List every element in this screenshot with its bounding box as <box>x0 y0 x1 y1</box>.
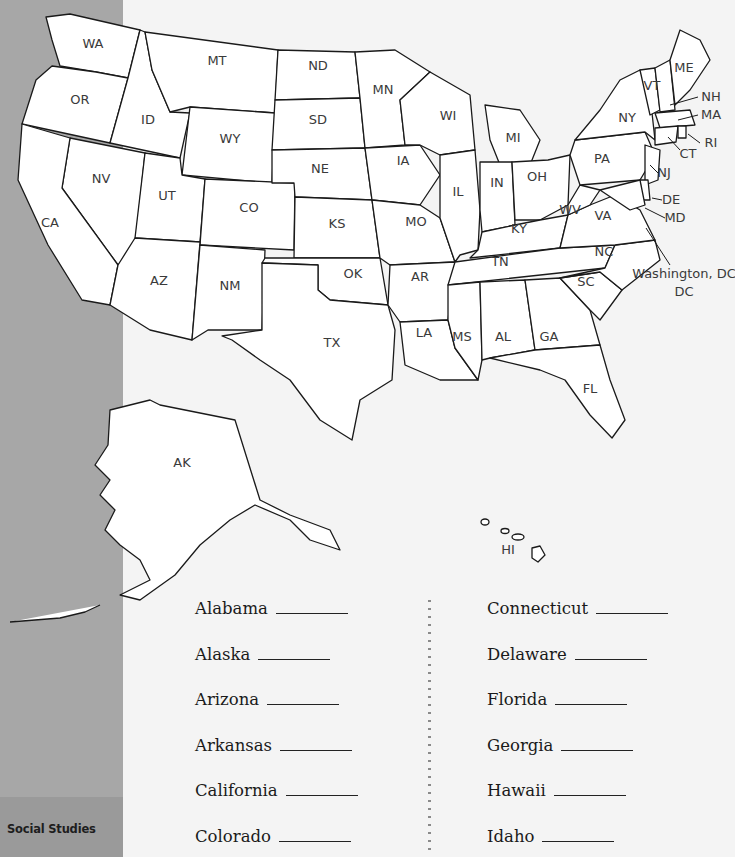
label-ut: UT <box>158 188 176 203</box>
callout-label: NJ <box>657 165 671 180</box>
callout-label-dc: DC <box>674 284 693 299</box>
answer-blank[interactable] <box>276 612 348 614</box>
label-mn: MN <box>373 82 394 97</box>
label-tn: TN <box>490 254 509 269</box>
answer-blank[interactable] <box>561 749 633 751</box>
label-ks: KS <box>329 216 346 231</box>
label-al: AL <box>495 329 512 344</box>
worksheet-row: Arkansas <box>195 736 352 755</box>
label-wa: WA <box>82 36 103 51</box>
state-name: Hawaii <box>487 781 546 800</box>
label-tx: TX <box>323 335 341 350</box>
callout-label: CT <box>679 146 696 161</box>
label-ca: CA <box>41 215 59 230</box>
callout-label: RI <box>705 135 718 150</box>
state-name: Arkansas <box>195 736 272 755</box>
state-mt <box>145 32 278 113</box>
state-name: Idaho <box>487 827 534 846</box>
label-pa: PA <box>594 151 610 166</box>
state-ct <box>655 126 678 145</box>
answer-blank[interactable] <box>542 840 614 842</box>
answer-blank[interactable] <box>286 794 358 796</box>
label-ky: KY <box>511 221 527 236</box>
worksheet-row: Florida <box>487 690 627 709</box>
state-name: Alabama <box>195 599 268 618</box>
callout-line <box>645 208 665 218</box>
state-fl <box>490 345 625 438</box>
callout-label: NH <box>701 89 721 104</box>
state-in <box>480 162 515 232</box>
callout-label: DE <box>662 192 680 207</box>
label-mt: MT <box>207 53 226 68</box>
answer-blank[interactable] <box>267 703 339 705</box>
worksheet-row: Delaware <box>487 645 647 664</box>
label-sc: SC <box>577 274 594 289</box>
label-wy: WY <box>220 131 241 146</box>
label-az: AZ <box>150 273 168 288</box>
state-name: Florida <box>487 690 547 709</box>
state-name: Arizona <box>195 690 259 709</box>
state-name: Alaska <box>195 645 250 664</box>
us-map: WAORIDMTWYNVUTCOCAAZNMNDSDNEKSOKTXMNIAMO… <box>0 0 735 640</box>
answer-blank[interactable] <box>596 612 668 614</box>
label-vt: VT <box>644 78 661 93</box>
label-in: IN <box>490 175 504 190</box>
callout-label: Washington, DC <box>632 266 735 281</box>
label-mi: MI <box>505 130 520 145</box>
label-nv: NV <box>92 171 111 186</box>
callout-line <box>688 134 700 143</box>
state-name: Georgia <box>487 736 553 755</box>
state-name: Connecticut <box>487 599 588 618</box>
label-nd: ND <box>308 58 328 73</box>
state-ri <box>678 126 686 138</box>
answer-blank[interactable] <box>279 840 351 842</box>
label-ok: OK <box>344 266 363 281</box>
label-wi: WI <box>440 108 457 123</box>
label-mo: MO <box>405 214 426 229</box>
worksheet-row: California <box>195 781 358 800</box>
label-hi: HI <box>501 542 515 557</box>
worksheet-row: Idaho <box>487 827 614 846</box>
worksheet-row: Hawaii <box>487 781 626 800</box>
label-il: IL <box>452 184 464 199</box>
state-name: Delaware <box>487 645 567 664</box>
callout-line <box>652 198 662 200</box>
callout-label: MD <box>664 210 685 225</box>
label-co: CO <box>239 200 258 215</box>
label-ia: IA <box>397 153 410 168</box>
label-va: VA <box>595 208 612 223</box>
state-pa <box>570 132 655 185</box>
state-name: Colorado <box>195 827 271 846</box>
state-ma <box>655 110 695 128</box>
label-ar: AR <box>411 269 429 284</box>
state-name: California <box>195 781 278 800</box>
worksheet-row: Connecticut <box>487 599 668 618</box>
alaska-shape <box>10 400 340 622</box>
label-nm: NM <box>220 278 241 293</box>
label-ms: MS <box>452 329 471 344</box>
answer-blank[interactable] <box>555 703 627 705</box>
answer-blank[interactable] <box>280 749 352 751</box>
label-wv: WV <box>559 202 581 217</box>
callout-label: MA <box>701 107 721 122</box>
label-sd: SD <box>309 112 327 127</box>
label-ny: NY <box>618 110 636 125</box>
label-me: ME <box>674 60 693 75</box>
label-id: ID <box>141 112 155 127</box>
section-label: Social Studies <box>7 822 96 836</box>
answer-blank[interactable] <box>575 658 647 660</box>
label-ga: GA <box>540 329 559 344</box>
label-oh: OH <box>527 169 547 184</box>
label-fl: FL <box>583 381 598 396</box>
worksheet-row: Alaska <box>195 645 330 664</box>
worksheet-row: Alabama <box>195 599 348 618</box>
label-or: OR <box>70 92 89 107</box>
answer-blank[interactable] <box>554 794 626 796</box>
worksheet-row: Georgia <box>487 736 633 755</box>
worksheet-row: Colorado <box>195 827 351 846</box>
answer-blank[interactable] <box>258 658 330 660</box>
label-ak: AK <box>173 455 191 470</box>
label-ne: NE <box>311 161 329 176</box>
states-layer: WAORIDMTWYNVUTCOCAAZNMNDSDNEKSOKTXMNIAMO… <box>18 14 710 440</box>
label-la: LA <box>416 325 433 340</box>
